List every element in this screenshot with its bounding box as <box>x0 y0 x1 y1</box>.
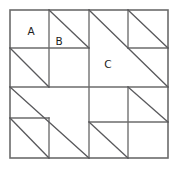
region-label-a: A <box>27 25 35 37</box>
region-label-b: B <box>55 35 62 47</box>
region-label-c: C <box>104 58 111 70</box>
geometric-figure-container: ABC <box>0 0 177 169</box>
geometric-figure: ABC <box>0 0 177 169</box>
